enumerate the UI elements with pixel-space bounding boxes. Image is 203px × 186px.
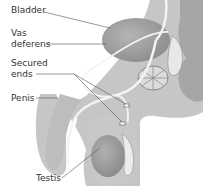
secured-end-upper — [124, 104, 129, 107]
vasectomy-diagram: Bladder Vas deferens Secured ends Penis … — [0, 0, 203, 186]
label-bladder: Bladder — [11, 5, 46, 15]
label-vas-deferens-line2: deferens — [11, 39, 50, 49]
testis-organ — [91, 135, 125, 177]
label-testis: Testis — [36, 173, 61, 183]
label-penis: Penis — [11, 93, 35, 103]
label-secured-ends-line1: Secured — [11, 58, 48, 68]
label-vas-deferens-line1: Vas — [11, 28, 27, 38]
secured-end-lower — [120, 122, 125, 125]
bladder-leader — [44, 12, 110, 28]
label-secured-ends-line2: ends — [11, 69, 33, 79]
